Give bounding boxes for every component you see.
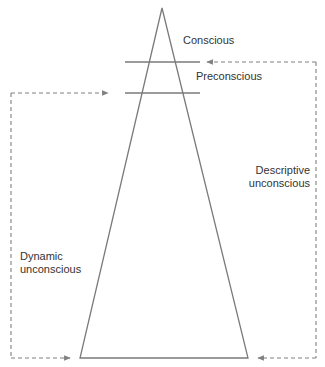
dynamic-unconscious-bracket	[11, 93, 108, 358]
descriptive-unconscious-bracket	[207, 62, 316, 358]
label-descriptive-line1: Descriptive	[240, 164, 310, 177]
label-dynamic-line2: unconscious	[20, 263, 81, 276]
label-descriptive-line2: unconscious	[240, 177, 310, 190]
mind-triangle	[80, 8, 248, 358]
label-descriptive-unconscious: Descriptive unconscious	[240, 164, 310, 190]
label-conscious: Conscious	[183, 34, 234, 47]
label-preconscious: Preconscious	[196, 70, 262, 83]
label-dynamic-unconscious: Dynamic unconscious	[20, 250, 81, 276]
label-dynamic-line1: Dynamic	[20, 250, 81, 263]
